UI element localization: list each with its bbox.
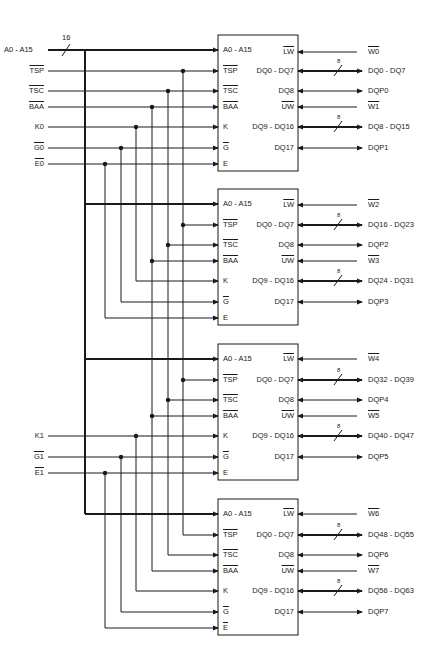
pin-dq9-dq16: DQ9 - DQ16	[240, 431, 294, 440]
pin-g: G	[223, 143, 229, 152]
signal-dqp-hi: DQP5	[368, 452, 388, 461]
pin-k: K	[223, 122, 228, 131]
signal-dq-hi: DQ40 - DQ47	[368, 431, 414, 440]
signal-dq-lo: DQ48 - DQ55	[368, 530, 414, 539]
pin-e: E	[223, 468, 228, 477]
pin-baa: BAA	[223, 256, 238, 265]
signal-dqp-lo: DQP0	[368, 86, 388, 95]
pin-uw: UW	[240, 256, 294, 265]
signal-dq-lo: DQ16 - DQ23	[368, 220, 414, 229]
pin-e: E	[223, 159, 228, 168]
signal-uw: W1	[368, 102, 379, 111]
input-k0-label: K0	[14, 122, 44, 131]
pin-dq17: DQ17	[240, 143, 294, 152]
pin-baa: BAA	[223, 566, 238, 575]
pin-lw: LW	[240, 47, 294, 56]
signal-dq-lo: DQ32 - DQ39	[368, 375, 414, 384]
pin-tsp: TSP	[223, 530, 238, 539]
input-g1-label: G1	[14, 452, 44, 461]
pin-uw: UW	[240, 102, 294, 111]
address-width-label: 16	[62, 33, 70, 42]
signal-dq-hi: DQ8 - DQ15	[368, 122, 410, 131]
bus-width-label: 8	[337, 113, 340, 122]
input-e1-label: E1	[14, 468, 44, 477]
input-k1-label: K1	[14, 431, 44, 440]
signal-dqp-hi: DQP7	[368, 607, 388, 616]
pin-dq8: DQ8	[240, 86, 294, 95]
bus-width-label: 8	[337, 521, 340, 530]
pin-baa: BAA	[223, 411, 238, 420]
pin-k: K	[223, 586, 228, 595]
signal-dq-lo: DQ0 - DQ7	[368, 66, 406, 75]
pin-tsc: TSC	[223, 86, 238, 95]
pin-e: E	[223, 313, 228, 322]
pin-tsc: TSC	[223, 395, 238, 404]
pin-k: K	[223, 431, 228, 440]
bus-width-label: 8	[337, 577, 340, 586]
signal-dqp-hi: DQP1	[368, 143, 388, 152]
pin-g: G	[223, 607, 229, 616]
signal-uw: W3	[368, 256, 379, 265]
pin-uw: UW	[240, 566, 294, 575]
pin-g: G	[223, 452, 229, 461]
pin-baa: BAA	[223, 102, 238, 111]
signal-dqp-lo: DQP2	[368, 240, 388, 249]
bus-width-label: 8	[337, 211, 340, 220]
signal-lw: W2	[368, 200, 379, 209]
pin-g: G	[223, 297, 229, 306]
input-tsc-label: TSC	[14, 86, 44, 95]
signal-uw: W5	[368, 411, 379, 420]
pin-dq0-dq7: DQ0 - DQ7	[240, 66, 294, 75]
pin-e: E	[223, 623, 228, 632]
pin-tsp: TSP	[223, 220, 238, 229]
pin-tsc: TSC	[223, 550, 238, 559]
pin-dq9-dq16: DQ9 - DQ16	[240, 586, 294, 595]
signal-uw: W7	[368, 566, 379, 575]
pin-dq17: DQ17	[240, 452, 294, 461]
pin-uw: UW	[240, 411, 294, 420]
pin-dq8: DQ8	[240, 240, 294, 249]
bus-width-label: 8	[337, 267, 340, 276]
pin-dq0-dq7: DQ0 - DQ7	[240, 375, 294, 384]
bus-width-label: 8	[337, 57, 340, 66]
input-tsp-label: TSP	[14, 66, 44, 75]
signal-dq-hi: DQ24 - DQ31	[368, 276, 414, 285]
input-baa-label: BAA	[14, 102, 44, 111]
pin-dq17: DQ17	[240, 297, 294, 306]
bus-width-label: 8	[337, 422, 340, 431]
pin-tsp: TSP	[223, 375, 238, 384]
pin-tsc: TSC	[223, 240, 238, 249]
pin-lw: LW	[240, 509, 294, 518]
input-g0-label: G0	[14, 143, 44, 152]
pin-dq9-dq16: DQ9 - DQ16	[240, 276, 294, 285]
signal-dqp-lo: DQP6	[368, 550, 388, 559]
pin-lw: LW	[240, 200, 294, 209]
signal-dqp-lo: DQP4	[368, 395, 388, 404]
pin-k: K	[223, 276, 228, 285]
input-address-label: A0 - A15	[4, 45, 33, 54]
pin-dq8: DQ8	[240, 395, 294, 404]
pin-dq9-dq16: DQ9 - DQ16	[240, 122, 294, 131]
pin-dq8: DQ8	[240, 550, 294, 559]
signal-dqp-hi: DQP3	[368, 297, 388, 306]
signal-dq-hi: DQ56 - DQ63	[368, 586, 414, 595]
pin-dq0-dq7: DQ0 - DQ7	[240, 530, 294, 539]
pin-tsp: TSP	[223, 66, 238, 75]
signal-lw: W0	[368, 47, 379, 56]
signal-lw: W6	[368, 509, 379, 518]
input-e0-label: E0	[14, 159, 44, 168]
pin-dq0-dq7: DQ0 - DQ7	[240, 220, 294, 229]
bus-width-label: 8	[337, 366, 340, 375]
pin-dq17: DQ17	[240, 607, 294, 616]
pin-lw: LW	[240, 354, 294, 363]
signal-lw: W4	[368, 354, 379, 363]
